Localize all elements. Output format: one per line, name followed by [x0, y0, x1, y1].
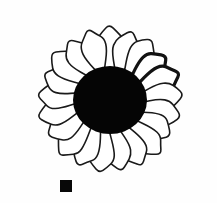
scale-bar-square: [60, 180, 72, 192]
central-disc: [73, 66, 147, 134]
figure-canvas: Daisy flower line drawing: [0, 0, 217, 203]
flower-illustration: [0, 0, 217, 203]
